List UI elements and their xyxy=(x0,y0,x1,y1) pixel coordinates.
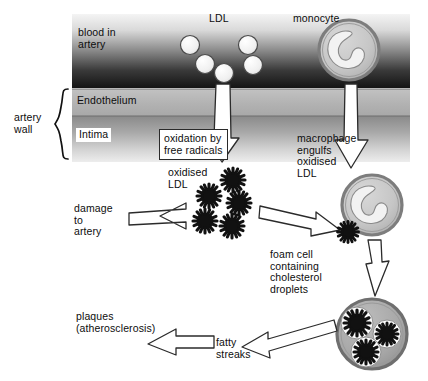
oxidised-ldl-particle xyxy=(227,191,251,215)
monocyte-cell xyxy=(319,20,379,80)
endothelium-label: Endothelium xyxy=(77,95,137,107)
foam-cell-label: foam cellcontainingcholesteroldroplets xyxy=(270,249,322,295)
macrophage-to-foam-arrow[interactable] xyxy=(366,240,389,296)
ldl-particle xyxy=(244,56,263,75)
artery-wall-label: arterywall xyxy=(14,112,41,135)
ldl-particle xyxy=(181,36,200,55)
oxidised-ldl-particle xyxy=(193,209,217,233)
plaques-label: plaques(atherosclerosis) xyxy=(76,311,155,334)
macrophage-engulfs-label: macrophageengulfsoxidisedLDL xyxy=(297,133,356,179)
blood-in-artery-label: blood inartery xyxy=(78,27,116,50)
oxidation-by-free-radicals-box: oxidation byfree radicals xyxy=(159,129,228,160)
macrophage-engulfed-particle xyxy=(338,222,359,243)
ldl-particle xyxy=(239,36,258,55)
foam-cell xyxy=(337,299,407,369)
ldl-label: LDL xyxy=(209,13,229,25)
diagram-canvas: blood inartery Endothelium Intima artery… xyxy=(0,0,428,381)
ldl-particle xyxy=(215,64,234,83)
oxidised-ldl-label: oxidisedLDL xyxy=(168,167,207,190)
fatty-streaks-to-plaques-arrow[interactable] xyxy=(148,329,214,355)
damage-to-artery-label: damagetoartery xyxy=(74,203,113,238)
foam-to-fatty-streaks-arrow[interactable] xyxy=(242,320,337,358)
monocyte-label: monocyte xyxy=(293,13,339,25)
foam-cell-droplet xyxy=(344,310,370,336)
foam-cell-droplet xyxy=(354,340,378,364)
ldl-particle xyxy=(196,55,215,74)
damage-to-artery-arrow[interactable] xyxy=(129,203,186,229)
intima-label: Intima xyxy=(76,128,111,142)
oxidised-ldl-particle xyxy=(220,214,244,238)
artery-wall-bracket xyxy=(55,89,68,159)
macrophage-cell xyxy=(338,175,403,243)
foam-cell-droplet xyxy=(376,323,398,345)
atherosclerosis-diagram xyxy=(0,0,428,381)
oxidised-ldl-particle xyxy=(221,168,245,192)
fatty-streaks-label: fattystreaks xyxy=(216,337,251,360)
oxidised-to-macrophage-arrow[interactable] xyxy=(259,206,340,236)
